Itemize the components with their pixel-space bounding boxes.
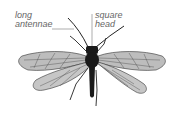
right-antenna [96,26,124,47]
label-line: head [95,20,123,29]
insect-thorax [85,52,99,68]
insect-abdomen [89,66,95,98]
label-square-head: square head [95,11,123,29]
left-front-leg [70,36,87,52]
label-long-antennae: long antennae [15,11,53,29]
label-line: antennae [15,20,53,29]
right-rear-leg [96,70,97,106]
